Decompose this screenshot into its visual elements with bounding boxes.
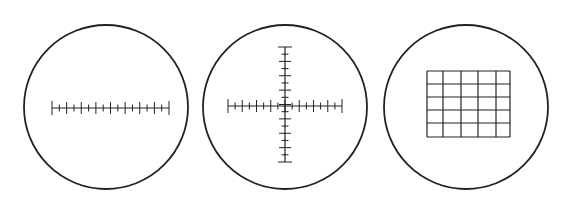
cross-scale-reticle bbox=[203, 25, 367, 189]
grid-reticle bbox=[384, 25, 548, 189]
linear-scale-reticle bbox=[24, 25, 188, 189]
field-of-view-circle bbox=[384, 25, 548, 189]
reticle-figure bbox=[0, 0, 575, 209]
field-of-view-circle bbox=[24, 25, 188, 189]
